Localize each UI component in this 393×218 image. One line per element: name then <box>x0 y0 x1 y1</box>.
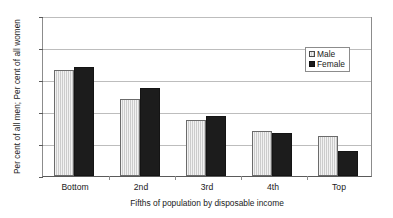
bar-male-2nd <box>120 99 140 176</box>
bar-male-3rd <box>186 120 206 176</box>
legend-swatch-male-icon <box>309 51 315 57</box>
legend-label: Male <box>317 50 335 59</box>
bar-group <box>43 17 109 176</box>
bar-group <box>175 17 241 176</box>
x-tick-mark <box>241 176 242 180</box>
bar-chart-figure: Per cent of all men; Per cent of all wom… <box>0 0 393 218</box>
legend-label: Female <box>317 60 345 69</box>
bar-group <box>241 17 307 176</box>
legend-swatch-female-icon <box>309 61 315 67</box>
chart-legend: MaleFemale <box>305 47 350 72</box>
legend-item-female: Female <box>309 60 345 69</box>
bar-female-4th <box>272 133 292 176</box>
bar-group <box>307 17 373 176</box>
x-axis-title: Fifths of population by disposable incom… <box>42 198 372 208</box>
bar-male-top <box>318 136 338 176</box>
legend-item-male: Male <box>309 50 345 59</box>
bar-female-bottom <box>74 67 94 176</box>
y-tick-mark <box>39 177 43 178</box>
bar-female-3rd <box>206 116 226 176</box>
y-axis-title: Per cent of all men; Per cent of all wom… <box>13 12 22 182</box>
bar-female-top <box>338 151 358 176</box>
x-tick-mark <box>307 176 308 180</box>
bar-male-bottom <box>54 70 74 176</box>
x-tick-mark <box>109 176 110 180</box>
x-tick-mark <box>175 176 176 180</box>
x-tick-label-top: Top <box>299 182 379 192</box>
bar-female-2nd <box>140 88 160 176</box>
plot-area <box>42 17 372 177</box>
bar-group <box>109 17 175 176</box>
bar-male-4th <box>252 131 272 176</box>
